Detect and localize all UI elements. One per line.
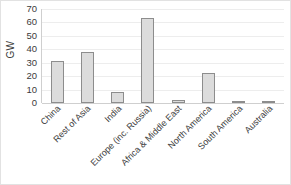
plot-area <box>41 9 284 103</box>
bar-slot <box>72 9 102 103</box>
y-axis-title: GW <box>5 43 16 59</box>
bar <box>262 101 275 103</box>
x-tick-label: China <box>39 104 63 128</box>
bar-slot <box>133 9 163 103</box>
bar-slot <box>163 9 193 103</box>
bar <box>51 61 64 103</box>
y-tick-label: 10 <box>26 85 37 95</box>
y-tick-label: 50 <box>26 31 37 41</box>
y-tick-label: 30 <box>26 58 37 68</box>
y-tick-label: 60 <box>26 18 37 28</box>
x-tick-label: Australia <box>243 104 275 136</box>
bar <box>172 100 185 103</box>
bar <box>232 101 245 103</box>
y-axis-tick-labels: 010203040506070 <box>17 9 39 103</box>
y-tick-label: 20 <box>26 71 37 81</box>
x-axis-category-labels: ChinaRest of AsiaIndiaEurope (inc. Russi… <box>41 104 284 184</box>
bar <box>81 52 94 103</box>
bar-slot <box>193 9 223 103</box>
bar-slot <box>42 9 72 103</box>
bar <box>141 18 154 103</box>
bar-chart: GW 010203040506070 ChinaRest of AsiaIndi… <box>0 0 291 185</box>
bar <box>111 92 124 103</box>
bar-series <box>42 9 284 103</box>
bar-slot <box>103 9 133 103</box>
bar-slot <box>224 9 254 103</box>
y-tick-label: 70 <box>26 4 37 14</box>
bar-slot <box>254 9 284 103</box>
x-tick-label: India <box>103 104 124 125</box>
y-tick-label: 0 <box>32 98 37 108</box>
y-tick-label: 40 <box>26 45 37 55</box>
bar <box>202 73 215 103</box>
